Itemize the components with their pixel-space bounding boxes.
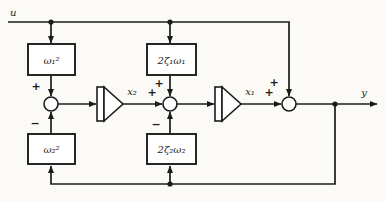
branch-dot-output-feedback <box>332 101 337 106</box>
summing-junction-3 <box>282 97 296 111</box>
integrator-1-bar <box>215 87 222 121</box>
block-2zeta1-omega1-label: 2ζ₁ω₁ <box>157 55 186 66</box>
block-2zeta2-omega2-label: 2ζ₂ω₂ <box>157 144 186 155</box>
summing-junction-2 <box>163 97 177 111</box>
branch-dot-u-2zeta1 <box>167 19 172 24</box>
branch-dot-u-omega1 <box>48 19 53 24</box>
summing-junction-1 <box>44 97 58 111</box>
integrator-2-symbol <box>97 87 123 121</box>
sum2-top-sign: + <box>154 77 163 90</box>
state-x1-label: x₁ <box>245 86 255 97</box>
integrator-2-triangle <box>104 87 123 121</box>
integrator-1-symbol <box>215 87 241 121</box>
sum2-bottom-sign: − <box>151 118 160 131</box>
output-signal-label: y <box>360 87 367 98</box>
block-diagram-canvas: ω₁² 2ζ₁ω₁ ω₂² 2ζ₂ω₂ + − + + − + + u x₂ x… <box>0 0 385 202</box>
sum1-bottom-sign: − <box>30 117 39 130</box>
sum3-top-sign: + <box>269 76 278 89</box>
input-signal-label: u <box>10 7 16 18</box>
state-x2-label: x₂ <box>127 86 137 97</box>
block-omega2-squared-label: ω₂² <box>43 144 59 155</box>
block-omega1-squared-label: ω₁² <box>43 55 59 66</box>
block-diagram: ω₁² 2ζ₁ω₁ ω₂² 2ζ₂ω₂ + − + + − + + u x₂ x… <box>0 0 385 202</box>
integrator-2-bar <box>97 87 104 121</box>
integrator-1-triangle <box>222 87 241 121</box>
sum1-top-sign: + <box>31 80 40 93</box>
branch-dot-feedback-2zeta2 <box>167 181 172 186</box>
